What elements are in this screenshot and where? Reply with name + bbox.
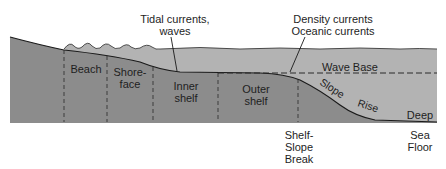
outer-shelf-line-1: Outer xyxy=(228,83,284,95)
density-line-2: Oceanic currents xyxy=(278,25,388,37)
density-currents-label: Density currents Oceanic currents xyxy=(278,13,388,37)
sea-floor-line-1: Sea xyxy=(398,129,442,141)
inner-shelf-line-1: Inner xyxy=(160,80,212,92)
shoreface-label: Shore- face xyxy=(108,66,152,90)
outer-shelf-label: Outer shelf xyxy=(228,83,284,107)
tidal-currents-label: Tidal currents, waves xyxy=(130,13,220,37)
shoreface-line-1: Shore- xyxy=(108,66,152,78)
tidal-line-1: Tidal currents, xyxy=(130,13,220,25)
shoreface-line-2: face xyxy=(108,78,152,90)
shelf-break-line-3: Break xyxy=(279,153,319,165)
density-line-1: Density currents xyxy=(278,13,388,25)
inner-shelf-label: Inner shelf xyxy=(160,80,212,104)
tidal-line-2: waves xyxy=(130,25,220,37)
sea-floor-line-2: Floor xyxy=(398,141,442,153)
shelf-break-line-2: Slope xyxy=(279,141,319,153)
inner-shelf-line-2: shelf xyxy=(160,92,212,104)
water-surface xyxy=(64,43,437,49)
beach-label: Beach xyxy=(66,63,106,75)
deep-label: Deep xyxy=(402,109,438,121)
shelf-break-line-1: Shelf- xyxy=(279,129,319,141)
shelf-slope-break-label: Shelf- Slope Break xyxy=(279,129,319,165)
wave-base-label: Wave Base xyxy=(315,61,385,73)
sea-floor-label: Sea Floor xyxy=(398,129,442,153)
outer-shelf-line-2: shelf xyxy=(228,95,284,107)
